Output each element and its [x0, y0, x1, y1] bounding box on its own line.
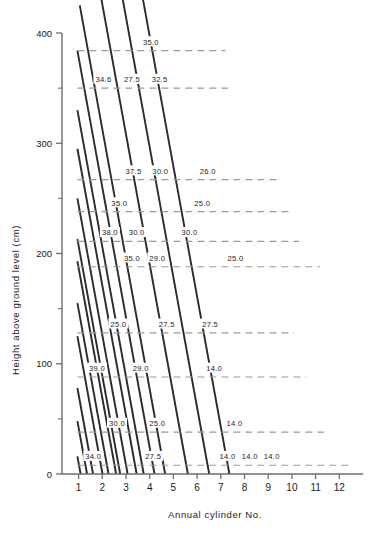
value-label: 14.0 — [264, 452, 280, 461]
x-axis-tick-label: 10 — [286, 482, 298, 493]
y-axis-tick-label: 300 — [36, 138, 52, 149]
value-label: 14.0 — [219, 452, 235, 461]
value-label: 30.0 — [152, 167, 168, 176]
value-label: 27.5 — [145, 452, 161, 461]
x-axis-tick-label: 11 — [310, 482, 321, 493]
value-label: 29.0 — [133, 364, 149, 373]
y-axis-ticks-group: 0100200300400 — [36, 28, 62, 480]
value-label: 27.5 — [124, 75, 140, 84]
x-axis-tick-label: 3 — [123, 482, 129, 493]
value-label: 35.0 — [124, 254, 140, 263]
x-axis-ticks-group: 123456789101112 — [76, 474, 345, 493]
value-label: 14.0 — [242, 452, 258, 461]
value-label: 27.5 — [202, 320, 218, 329]
value-label: 14.0 — [206, 364, 222, 373]
value-label: 34.6 — [95, 75, 111, 84]
value-label: 25.0 — [149, 419, 165, 428]
value-label: 35.0 — [111, 199, 127, 208]
value-label: 25.0 — [227, 254, 243, 263]
y-axis-title: Height above ground level (cm) — [10, 225, 21, 375]
x-axis-tick-label: 1 — [76, 482, 82, 493]
x-axis-tick-label: 5 — [171, 482, 177, 493]
x-axis-title: Annual cylinder No. — [168, 509, 262, 520]
diagonal-line — [77, 239, 120, 474]
x-axis-tick-label: 2 — [100, 482, 106, 493]
x-axis-tick-label: 7 — [218, 482, 224, 493]
value-label: 35.0 — [143, 38, 159, 47]
chart-canvas: 0100200300400 123456789101112 35.034.627… — [0, 0, 382, 535]
y-axis-tick-label: 0 — [47, 469, 52, 480]
value-label: 25.0 — [194, 199, 210, 208]
chart-figure: 0100200300400 123456789101112 35.034.627… — [0, 0, 382, 535]
dashed-level-lines-group — [77, 51, 351, 466]
value-label: 25.0 — [110, 320, 126, 329]
value-label: 38.0 — [102, 228, 118, 237]
x-axis-tick-label: 4 — [147, 482, 153, 493]
value-label: 34.0 — [85, 452, 101, 461]
x-axis-tick-label: 8 — [242, 482, 248, 493]
value-label: 26.0 — [200, 167, 216, 176]
value-label: 30.0 — [109, 419, 125, 428]
x-axis-tick-label: 9 — [265, 482, 271, 493]
x-axis-tick-label: 6 — [194, 482, 200, 493]
value-label: 30.0 — [129, 228, 145, 237]
value-label: 37.5 — [126, 167, 142, 176]
y-axis-tick-label: 200 — [36, 248, 52, 259]
y-axis-tick-label: 100 — [36, 358, 52, 369]
y-axis-tick-label: 400 — [36, 28, 52, 39]
value-label: 27.5 — [159, 320, 175, 329]
axes-group — [62, 33, 363, 474]
value-label: 14.0 — [227, 419, 243, 428]
x-axis-tick-label: 12 — [334, 482, 346, 493]
value-label: 29.0 — [149, 254, 165, 263]
value-label: 30.0 — [182, 228, 198, 237]
value-label: 39.0 — [89, 364, 105, 373]
value-label: 32.5 — [152, 75, 168, 84]
